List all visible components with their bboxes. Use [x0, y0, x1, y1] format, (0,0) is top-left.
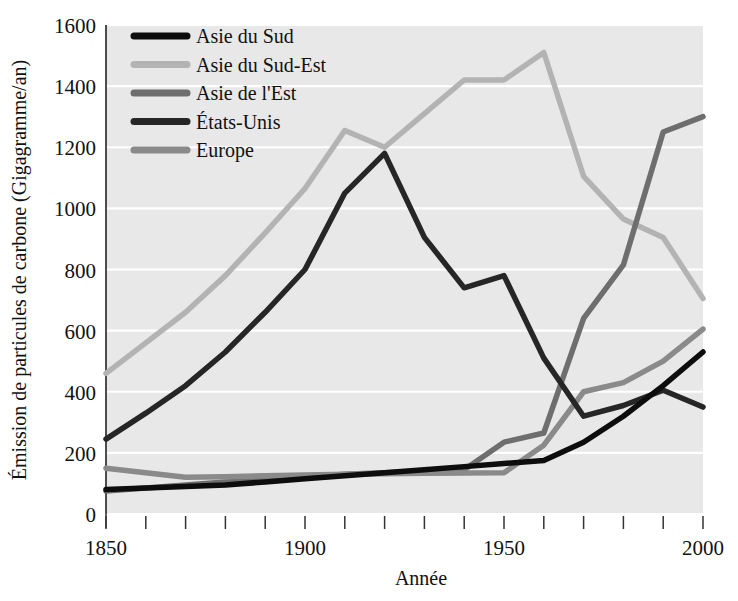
legend-label: Asie de l'Est — [196, 82, 297, 104]
y-axis-tick-label: 200 — [65, 442, 97, 466]
y-axis-title: Émission de particules de carbone (Gigag… — [8, 60, 31, 480]
legend-label: Europe — [196, 139, 254, 162]
y-axis-tick-label: 1000 — [54, 197, 96, 221]
legend-label: Asie du Sud-Est — [196, 54, 326, 76]
y-axis-tick-label: 1600 — [54, 14, 96, 38]
legend-label: Asie du Sud — [196, 25, 294, 47]
y-axis-tick-label: 1400 — [54, 75, 96, 99]
y-axis-tick-label: 0 — [86, 503, 97, 527]
x-axis-tick-label: 2000 — [682, 536, 724, 560]
y-axis-tick-label: 800 — [65, 259, 97, 283]
x-axis-title: Année — [395, 567, 447, 589]
legend-label: États-Unis — [196, 111, 281, 133]
x-axis-tick-label: 1850 — [85, 536, 127, 560]
chart-canvas: 02004006008001000120014001600 1850190019… — [0, 0, 738, 601]
x-axis-tick-label: 1950 — [483, 536, 525, 560]
line-chart: 02004006008001000120014001600 1850190019… — [0, 0, 738, 601]
x-axis-tick-label: 1900 — [284, 536, 326, 560]
y-axis-tick-label: 1200 — [54, 136, 96, 160]
y-axis-tick-label: 600 — [65, 320, 97, 344]
y-axis-tick-label: 400 — [65, 381, 97, 405]
